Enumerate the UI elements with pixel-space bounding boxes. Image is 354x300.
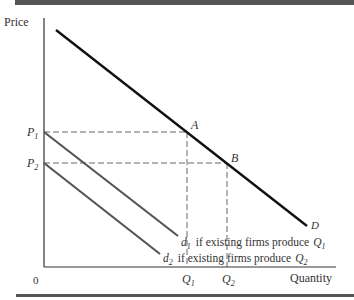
y-axis-label: Price bbox=[4, 15, 29, 29]
d1-label: d1if existing firms produceQ1 bbox=[181, 236, 325, 251]
q2-label: Q2 bbox=[222, 272, 235, 288]
residual-demand-d1 bbox=[44, 132, 178, 236]
demand-d-label: D bbox=[310, 219, 319, 231]
point-b-label: B bbox=[231, 151, 239, 165]
top-rule bbox=[15, 0, 354, 5]
p2-label: P2 bbox=[26, 156, 38, 172]
diagram-svg: Price Quantity 0 P1 P2 Q1 Q2 A B D d1if … bbox=[0, 0, 354, 300]
market-demand-curve bbox=[56, 30, 307, 226]
p1-label: P1 bbox=[26, 125, 38, 141]
origin-label: 0 bbox=[33, 274, 39, 286]
x-axis-label: Quantity bbox=[290, 271, 332, 285]
q1-label: Q1 bbox=[182, 272, 195, 288]
bottom-rule bbox=[16, 294, 354, 297]
residual-demand-diagram: Price Quantity 0 P1 P2 Q1 Q2 A B D d1if … bbox=[0, 0, 354, 300]
point-a-label: A bbox=[190, 118, 199, 132]
d2-label: d2if existing firms produceQ2 bbox=[163, 252, 307, 267]
